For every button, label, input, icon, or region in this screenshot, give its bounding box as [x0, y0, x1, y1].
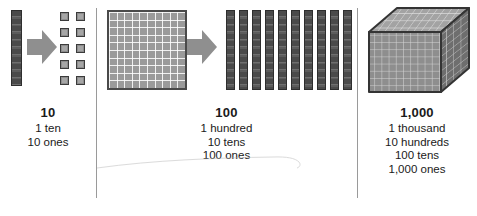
transform-arrow-icon: [27, 30, 57, 64]
ten-rod: [252, 10, 261, 90]
ten-rod: [317, 10, 326, 90]
panel-thousand-line-4: 1,000 ones: [357, 163, 477, 177]
unit-square: [76, 12, 85, 21]
ten-rod: [291, 10, 300, 90]
panel-thousand-line-2: 10 hundreds: [357, 136, 477, 150]
panel-ten-caption: 10 1 ten 10 ones: [0, 105, 96, 149]
panel-thousand-art: [357, 0, 477, 96]
panel-thousand-caption: 1,000 1 thousand 10 hundreds 100 tens 1,…: [357, 105, 477, 176]
panel-hundred: 100 1 hundred 10 tens 100 ones: [96, 0, 357, 216]
panel-thousand: 1,000 1 thousand 10 hundreds 100 tens 1,…: [357, 0, 477, 216]
unit-square: [60, 76, 69, 85]
ten-rod: [330, 10, 339, 90]
panel-ten-value: 10: [0, 105, 96, 120]
ten-rod: [343, 10, 352, 90]
thousand-cube: [367, 6, 471, 96]
ten-rod: [278, 10, 287, 90]
ten-rod: [239, 10, 248, 90]
panel-hundred-value: 100: [96, 105, 357, 120]
panel-ten-line-1: 1 ten: [0, 122, 96, 136]
unit-square: [76, 28, 85, 37]
unit-square: [76, 76, 85, 85]
transform-arrow-icon: [187, 30, 217, 64]
ten-rod: [11, 10, 22, 86]
panel-thousand-line-3: 100 tens: [357, 149, 477, 163]
panel-ten-line-2: 10 ones: [0, 136, 96, 150]
unit-square: [60, 44, 69, 53]
panel-hundred-line-2: 10 tens: [96, 136, 357, 150]
unit-square: [60, 60, 69, 69]
unit-square: [76, 60, 85, 69]
unit-square: [60, 28, 69, 37]
panel-thousand-value: 1,000: [357, 105, 477, 120]
unit-square: [76, 44, 85, 53]
panel-thousand-line-1: 1 thousand: [357, 122, 477, 136]
panel-hundred-caption: 100 1 hundred 10 tens 100 ones: [96, 105, 357, 163]
place-value-diagram: 10 1 ten 10 ones: [0, 0, 477, 216]
unit-square: [60, 12, 69, 21]
panel-hundred-art: [96, 0, 357, 96]
ten-rod: [265, 10, 274, 90]
ten-rod: [304, 10, 313, 90]
panel-ten: 10 1 ten 10 ones: [0, 0, 96, 216]
ten-rod: [226, 10, 235, 90]
panel-ten-art: [0, 0, 96, 96]
panel-hundred-line-3: 100 ones: [96, 149, 357, 163]
panel-hundred-line-1: 1 hundred: [96, 122, 357, 136]
hundred-flat: [107, 10, 187, 90]
